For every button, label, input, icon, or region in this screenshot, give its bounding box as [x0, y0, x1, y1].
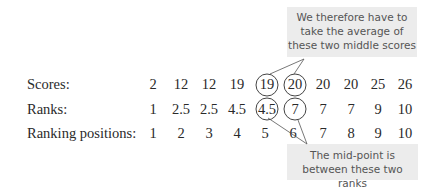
pointer-line-bottom-right	[298, 120, 307, 144]
annotation-overlay	[0, 0, 431, 187]
highlight-circle-rank-7	[284, 98, 306, 120]
pointer-line-bottom-left	[268, 118, 307, 144]
highlight-circle-rank-4-5	[256, 98, 278, 120]
highlight-circle-score-19	[256, 74, 278, 96]
highlight-circle-score-20	[284, 74, 306, 96]
